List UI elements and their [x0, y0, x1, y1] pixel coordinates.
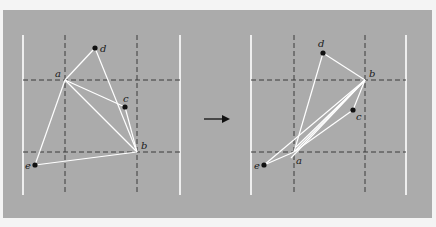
point-label-c: c	[356, 111, 362, 122]
voronoi-transform-diagram: abcdeabcde	[0, 0, 436, 227]
point-label-b: b	[141, 140, 147, 151]
point-e	[261, 162, 266, 167]
figure-background	[3, 10, 432, 218]
diagram-figure: abcdeabcde	[0, 0, 436, 227]
point-e	[32, 162, 37, 167]
point-label-c: c	[123, 93, 129, 104]
point-label-d: d	[318, 38, 324, 49]
point-c	[122, 104, 127, 109]
point-d	[320, 50, 325, 55]
point-label-a: a	[296, 155, 302, 166]
point-label-a: a	[55, 68, 61, 79]
point-label-d: d	[100, 43, 106, 54]
point-d	[92, 45, 97, 50]
point-label-e: e	[25, 160, 31, 171]
point-label-e: e	[254, 160, 260, 171]
point-c	[350, 107, 355, 112]
point-label-b: b	[369, 68, 375, 79]
